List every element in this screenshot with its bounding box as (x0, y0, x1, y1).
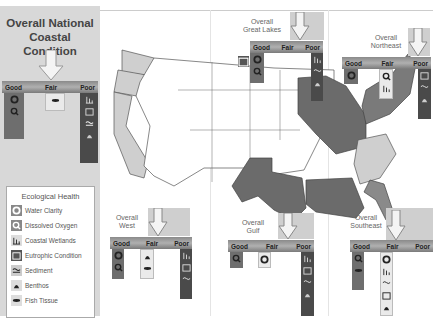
gulf-rating-scale: Good Fair Poor (228, 240, 314, 252)
legend-item-coastal-wetlands: Coastal Wetlands (11, 235, 94, 246)
eutrophic-condition-icon (85, 107, 94, 116)
fish-tissue-icon (143, 264, 152, 273)
southeast-rating-scale: Good Fair Poor (350, 240, 433, 252)
legend-item-water-clarity: Water Clarity (11, 205, 94, 216)
gulf-states (306, 178, 364, 218)
sediment-icon (382, 279, 391, 288)
legend-item-benthos: Benthos (11, 280, 94, 291)
sediment-icon (182, 275, 191, 284)
eutrophic-condition-icon (182, 263, 191, 272)
eutrophic-condition-icon (303, 266, 312, 275)
benthos-icon (382, 303, 391, 312)
sediment-icon (420, 83, 429, 92)
national-fair-column (45, 93, 65, 111)
eutrophic-condition-icon (420, 71, 429, 80)
great-lakes-rating-scale: Good Fair Poor (250, 41, 323, 53)
national-rating-scale: Good Fair Poor (2, 81, 98, 93)
dissolved-oxygen-icon (12, 221, 21, 230)
legend-item-dissolved-oxygen: Dissolved Oxygen (11, 220, 94, 231)
southeast-label: Overall Southeast (346, 214, 386, 230)
rating-arrow-icon (386, 210, 406, 240)
west-rating-scale: Good Fair Poor (110, 237, 192, 249)
coastal-wetlands-icon (303, 254, 312, 263)
great-lakes-poor-column (311, 53, 323, 101)
sediment-icon (303, 278, 312, 287)
dissolved-oxygen-icon (253, 67, 262, 76)
rating-arrow-icon (38, 50, 64, 80)
legend-item-sediment: Sediment (11, 265, 94, 276)
water-clarity-icon (10, 95, 19, 104)
northeast-good-column (344, 69, 358, 84)
west-good-column (112, 249, 124, 279)
dissolved-oxygen-icon (232, 254, 241, 263)
benthos-icon (12, 281, 21, 290)
legend-item-fish-tissue: Fish Tissue (11, 295, 94, 306)
fish-tissue-icon (354, 266, 363, 275)
west-label: Overall West (110, 214, 144, 230)
national-good-column (4, 93, 24, 139)
benthos-icon (85, 131, 94, 140)
southeast-good-column (352, 252, 364, 290)
coastal-wetlands-icon (182, 251, 191, 260)
sediment-icon (313, 67, 322, 76)
southeast-states (354, 134, 396, 184)
fish-tissue-icon (51, 96, 60, 105)
coastal-wetlands-icon (382, 84, 391, 93)
northeast-rating-scale: Good Fair Poor (342, 57, 431, 69)
coastal-wetlands-icon (382, 267, 391, 276)
dissolved-oxygen-icon (114, 263, 123, 272)
rating-arrow-icon (148, 208, 168, 236)
sediment-icon (12, 266, 21, 275)
west-fair-column (140, 249, 154, 279)
benthos-icon (303, 290, 312, 299)
west-poor-column (180, 249, 192, 299)
benthos-icon (420, 95, 429, 104)
eutrophic-condition-icon (382, 291, 391, 300)
gulf-good-column (230, 252, 243, 268)
gulf-fair-column (258, 252, 271, 268)
water-clarity-icon (347, 71, 356, 80)
legend-item-eutrophic-condition: Eutrophic Condition (11, 250, 94, 261)
southeast-fair-column (380, 252, 393, 316)
eutrophic-condition-icon (238, 56, 249, 67)
benthos-icon (313, 79, 322, 88)
ecological-health-legend: Ecological Health Water Clarity Dissolve… (6, 186, 95, 318)
great-lakes-good-column (250, 53, 264, 83)
eutrophic-condition-icon (12, 251, 21, 260)
coastal-wetlands-icon (12, 236, 21, 245)
northeast-fair-column (379, 69, 393, 99)
legend-title: Ecological Health (7, 192, 94, 201)
fish-tissue-icon (12, 296, 21, 305)
northeast-poor-column (418, 69, 431, 119)
water-clarity-icon (260, 255, 269, 264)
rating-arrow-icon (408, 28, 428, 56)
national-summary-panel: Overall National Coastal Condition Good … (0, 6, 100, 316)
gulf-label: Overall Gulf (236, 219, 270, 235)
water-clarity-icon (253, 55, 262, 64)
coastal-wetlands-icon (313, 55, 322, 64)
rating-arrow-icon (290, 12, 310, 40)
great-lakes-label: Overall Great Lakes (232, 18, 292, 34)
sediment-icon (85, 119, 94, 128)
dissolved-oxygen-icon (354, 254, 363, 263)
divider (100, 10, 433, 11)
water-clarity-icon (12, 206, 21, 215)
rating-arrow-icon (278, 213, 298, 239)
northeast-label: Overall Northeast (364, 34, 408, 50)
dissolved-oxygen-icon (10, 107, 19, 116)
coastal-wetlands-icon (85, 95, 94, 104)
gulf-poor-column (301, 252, 314, 316)
water-clarity-icon (114, 251, 123, 260)
water-clarity-icon (382, 255, 391, 264)
national-poor-column (80, 93, 98, 163)
benthos-icon (143, 252, 152, 261)
dissolved-oxygen-icon (382, 72, 391, 81)
